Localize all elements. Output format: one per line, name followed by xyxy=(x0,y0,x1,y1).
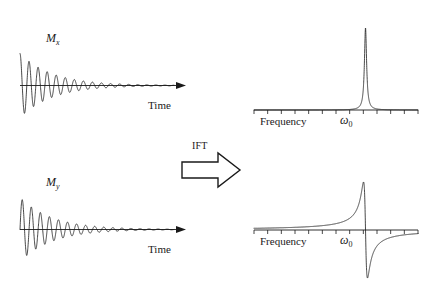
dispersion-axis-label: Frequency xyxy=(260,236,306,247)
ift-block-arrow xyxy=(180,150,242,194)
mx-axis-label: Time xyxy=(148,100,171,111)
absorption-axis-ticks xyxy=(254,110,418,114)
mx-fid-plot xyxy=(18,48,188,123)
panel-dispersion-spectrum: Frequency ω0 xyxy=(252,168,420,272)
absorption-trace xyxy=(254,28,418,110)
my-fid-plot xyxy=(18,192,188,267)
dispersion-peak-label: ω0 xyxy=(340,234,352,249)
mx-label: Mx xyxy=(46,32,60,47)
dispersion-plot xyxy=(252,168,420,272)
absorption-plot xyxy=(252,22,420,116)
my-axis-arrowhead xyxy=(176,226,186,233)
my-axis-label: Time xyxy=(148,244,171,255)
dispersion-axis-ticks xyxy=(254,230,418,234)
mx-axis-arrowhead xyxy=(176,82,186,89)
ift-arrow-polygon xyxy=(182,153,240,187)
ift-label: IFT xyxy=(192,141,208,151)
absorption-axis-label: Frequency xyxy=(260,116,306,127)
nmr-ift-figure: Mx Time My Time IFT Frequency ω0 xyxy=(0,0,430,290)
panel-absorption-spectrum: Frequency ω0 xyxy=(252,22,420,116)
panel-my-fid: My Time xyxy=(18,192,188,267)
absorption-peak-label: ω0 xyxy=(340,114,352,129)
panel-mx-fid: Mx Time xyxy=(18,48,188,123)
ift-arrow-shape xyxy=(180,150,242,190)
my-label: My xyxy=(46,176,60,191)
